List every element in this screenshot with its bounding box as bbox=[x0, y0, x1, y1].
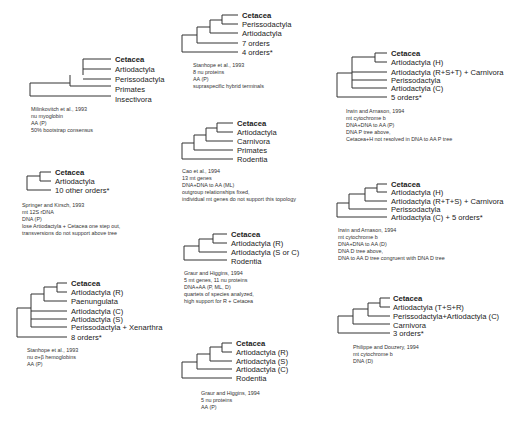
taxon-label: Artiodactyla (H) bbox=[391, 58, 443, 67]
caption-line: nu α+β hemoglobins bbox=[27, 354, 78, 361]
taxon-label: Artiodactyla bbox=[242, 29, 282, 38]
tree-caption: Stanhope et al., 1993 8 nu proteins AA (… bbox=[193, 62, 264, 90]
taxon-label: Cetacea bbox=[231, 230, 260, 239]
caption-line: 50% bootstrap consensus bbox=[31, 127, 93, 134]
caption-line: AA (P) bbox=[31, 120, 93, 127]
caption-line: 8 nu proteins bbox=[193, 69, 264, 76]
taxon-label: Perissodactyla bbox=[242, 20, 291, 29]
tree-panel-irwin-arnason-p: Cetacea Artiodactyla (H) Artiodactyla (R… bbox=[335, 48, 520, 148]
taxon-label: Perissodactyla bbox=[115, 75, 164, 84]
caption-line: Graur and Higgins, 1994 bbox=[184, 270, 254, 277]
taxon-label: Rodentia bbox=[237, 155, 267, 164]
caption-line: Milinkovitch et al., 1993 bbox=[31, 106, 93, 113]
tree-caption: Milinkovitch et al., 1993 nu myoglobin A… bbox=[31, 106, 93, 134]
caption-line: Stanhope et al., 1993 bbox=[193, 62, 264, 69]
caption-line: individual mt genes do not support this … bbox=[182, 196, 296, 203]
caption-line: mt cytochrome b bbox=[346, 115, 452, 122]
caption-line: Springer and Kirsch, 1993 bbox=[22, 202, 120, 209]
tree-caption: Graur and Higgins, 1994 5 nu proteins AA… bbox=[201, 390, 260, 411]
caption-line: AA (P) bbox=[193, 76, 264, 83]
caption-line: Irwin and Arnason, 1994 bbox=[338, 227, 445, 234]
taxon-label: 3 orders* bbox=[393, 329, 424, 338]
caption-line: AA (P) bbox=[201, 404, 260, 411]
caption-line: supraspecific hybrid terminals bbox=[193, 83, 264, 90]
taxon-label: Cetacea bbox=[115, 55, 144, 64]
taxon-label: Artiodactyla (S or C) bbox=[231, 248, 299, 257]
taxon-label: Rodentia bbox=[231, 257, 261, 266]
taxon-label: 10 other orders* bbox=[55, 186, 109, 195]
taxon-label: 7 orders bbox=[242, 39, 270, 48]
caption-line: DNA+AA (P, ML, D) bbox=[184, 284, 254, 291]
taxon-label: Paenungulata bbox=[71, 297, 118, 306]
tree-panel-philippe-douzery: Cetacea Artiodactyla (T+S+R) Perissodact… bbox=[335, 295, 520, 375]
taxon-label: Cetacea bbox=[391, 49, 420, 58]
tree-panel-milinkovitch: Cetacea Artiodactyla Perissodactyla Prim… bbox=[28, 55, 158, 130]
taxon-label: Artiodactyla bbox=[115, 65, 155, 74]
caption-line: Graur and Higgins, 1994 bbox=[201, 390, 260, 397]
tree-caption: Irwin and Arnason, 1994 mt cytochrome b … bbox=[338, 227, 445, 262]
caption-line: nu myoglobin bbox=[31, 113, 93, 120]
caption-line: Cao et al., 1994 bbox=[182, 168, 296, 175]
taxon-label: Artiodactyla (T+S+R) bbox=[393, 303, 464, 312]
cladogram-lines bbox=[28, 55, 128, 105]
taxon-label: Artiodactyla (R) bbox=[236, 348, 288, 357]
taxon-label: Cetacea bbox=[236, 339, 265, 348]
tree-panel-irwin-arnason-d: Cetacea Artiodactyla (H) Artiodactyla (R… bbox=[335, 180, 520, 275]
taxon-label: Cetacea bbox=[71, 279, 100, 288]
taxon-label: Insectivora bbox=[115, 95, 152, 104]
caption-line: Stanhope et al., 1993 bbox=[27, 347, 78, 354]
caption-line: DNA+DNA to AA (ML) bbox=[182, 182, 296, 189]
caption-line: DNA to AA D tree congruent with DNA D tr… bbox=[338, 255, 445, 262]
taxon-label: Artiodactyla (R) bbox=[71, 288, 123, 297]
taxon-label: Primates bbox=[115, 85, 145, 94]
caption-line: 13 mt genes bbox=[182, 175, 296, 182]
taxon-label: Cetacea bbox=[237, 119, 266, 128]
taxon-label: Artiodactyla bbox=[237, 128, 277, 137]
caption-line: transversions do not support above tree bbox=[22, 230, 120, 237]
caption-line: DNA+DNA to AA (D) bbox=[338, 241, 445, 248]
caption-line: DNA D tree above, bbox=[338, 248, 445, 255]
taxon-label: Perissodactyla + Xenarthra bbox=[71, 323, 162, 332]
tree-panel-graur-higgins-nu: Cetacea Artiodactyla (R) Artiodactyla (S… bbox=[180, 340, 340, 420]
taxon-label: Carnivora bbox=[237, 137, 270, 146]
caption-line: Cetacea+H not resolved in DNA to AA P tr… bbox=[346, 136, 452, 143]
tree-panel-graur-higgins-mt: Cetacea Artiodactyla (R) Artiodactyla (S… bbox=[182, 230, 342, 310]
tree-panel-stanhope-8nu: Cetacea Perissodactyla Artiodactyla 7 or… bbox=[180, 10, 330, 90]
taxon-label: Rodentia bbox=[236, 374, 266, 383]
taxon-label: 4 orders* bbox=[242, 48, 273, 57]
caption-line: quartets of species analyzed, bbox=[184, 291, 254, 298]
caption-line: Philippe and Douzery, 1994 bbox=[353, 344, 419, 351]
tree-panel-springer-kirsch: Cetacea Artiodactyla 10 other orders* Sp… bbox=[25, 168, 175, 243]
tree-caption: Irwin and Arnason, 1994 mt cytochrome b … bbox=[346, 108, 452, 143]
taxon-label: 8 orders* bbox=[71, 333, 102, 342]
taxon-label: Artiodactyla (H) bbox=[391, 188, 443, 197]
taxon-label: 5 orders* bbox=[391, 93, 422, 102]
caption-line: mt cytochrome b bbox=[338, 234, 445, 241]
tree-panel-cao: Cetacea Artiodactyla Carnivora Primates … bbox=[180, 118, 345, 208]
tree-caption: Graur and Higgins, 1994 5 mt genes, 11 n… bbox=[184, 270, 254, 305]
taxon-label: Cetacea bbox=[393, 294, 422, 303]
tree-caption: Philippe and Douzery, 1994 mt cytochrome… bbox=[353, 344, 419, 365]
caption-line: 5 nu proteins bbox=[201, 397, 260, 404]
tree-caption: Springer and Kirsch, 1993 mt 12S rDNA DN… bbox=[22, 202, 120, 237]
taxon-label: Artiodactyla (R) bbox=[231, 239, 283, 248]
taxon-label: Cetacea bbox=[55, 168, 84, 177]
tree-caption: Stanhope et al., 1993 nu α+β hemoglobins… bbox=[27, 347, 78, 368]
caption-line: DNA (P) bbox=[22, 216, 120, 223]
taxon-label: Cetacea bbox=[242, 11, 271, 20]
caption-line: high support for R + Cetacea bbox=[184, 298, 254, 305]
tree-panel-stanhope-hemoglobin: Cetacea Artiodactyla (R) Paenungulata Ar… bbox=[15, 280, 175, 380]
taxon-label: Perissodactyla+Artiodactyla (C) bbox=[393, 312, 499, 321]
taxon-label: Artiodactyla (C) + 5 orders* bbox=[391, 213, 483, 222]
caption-line: DNA+DNA to AA (P) bbox=[346, 122, 452, 129]
caption-line: mt cytochrome b bbox=[353, 351, 419, 358]
caption-line: lose Artiodactyla + Cetacea one step out… bbox=[22, 223, 120, 230]
taxon-label: Artiodactyla (C) bbox=[236, 365, 288, 374]
taxon-label: Artiodactyla (C) bbox=[391, 84, 443, 93]
caption-line: Irwin and Arnason, 1994 bbox=[346, 108, 452, 115]
caption-line: AA (P) bbox=[27, 361, 78, 368]
tree-caption: Cao et al., 1994 13 mt genes DNA+DNA to … bbox=[182, 168, 296, 203]
taxon-label: Primates bbox=[237, 146, 267, 155]
caption-line: DNA (D) bbox=[353, 358, 419, 365]
caption-line: 5 mt genes, 11 nu proteins bbox=[184, 277, 254, 284]
